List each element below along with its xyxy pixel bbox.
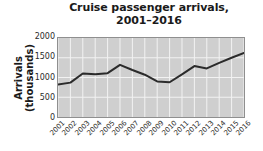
line-chart-svg — [58, 38, 244, 117]
chart-figure: Cruise passenger arrivals, 2001–2016 Arr… — [0, 0, 263, 151]
y-axis-tick-500: 500 — [30, 94, 55, 102]
x-axis-tick-labels: 2001200220032004200520062007200820092010… — [57, 119, 245, 151]
y-axis-tick-2000: 2000 — [30, 33, 55, 41]
chart-title: Cruise passenger arrivals, 2001–2016 — [38, 1, 260, 27]
chart-title-line-1: Cruise passenger arrivals, — [69, 1, 229, 14]
y-axis-tick-0: 0 — [30, 114, 55, 122]
y-axis-tick-1500: 1500 — [30, 53, 55, 61]
y-axis-tick-1000: 1000 — [30, 74, 55, 82]
y-axis-title-line-1: Arrivals — [13, 44, 24, 112]
chart-title-line-2: 2001–2016 — [38, 14, 260, 27]
plot-area — [57, 37, 245, 118]
